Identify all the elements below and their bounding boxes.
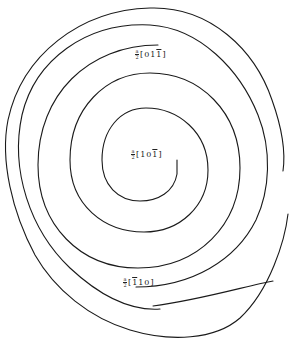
label-burgers-bottom: a 2 [ 1 1 0 ] [123,277,154,288]
label-burgers-top: a 2 [ 0 1 1 ] [135,49,166,60]
fraction-a-over-2: a 2 [135,49,139,60]
fraction-a-over-2: a 2 [131,149,135,160]
fraction-a-over-2: a 2 [123,277,127,288]
label-burgers-center: a 2 [ 1 0 1 ] [131,149,162,160]
spiral-arc-tail-1 [153,281,273,306]
spiral-arc-middle [19,25,268,309]
